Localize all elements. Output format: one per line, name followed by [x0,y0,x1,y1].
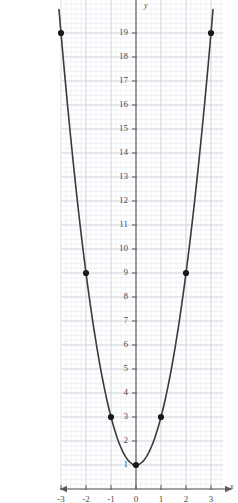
x-axis-label: x [230,482,234,491]
x-tick-label: -1 [101,494,121,503]
y-tick-label: 9 [104,267,128,277]
data-point [183,270,189,276]
y-tick-label: 6 [104,339,128,349]
graph-screenshot: 12345678910111213141516171819 -3-2-10123… [0,0,238,503]
y-tick-label: 18 [104,51,128,61]
y-tick-label: 15 [104,123,128,133]
x-tick-label: 1 [151,494,171,503]
x-tick-label: 3 [201,494,221,503]
y-tick-label: 19 [104,27,128,37]
data-point [83,270,89,276]
y-tick-label: 14 [104,147,128,157]
y-tick-label: 8 [104,291,128,301]
y-tick-label: 13 [104,171,128,181]
y-tick-label: 17 [104,75,128,85]
y-tick-label: 7 [104,315,128,325]
y-tick-label: 1 [104,459,128,469]
y-tick-label: 12 [104,195,128,205]
data-point [133,462,139,468]
data-point [158,414,164,420]
data-point [58,30,64,36]
y-tick-label: 2 [104,435,128,445]
y-axis-label: y [144,1,148,10]
x-tick-label: 0 [126,494,146,503]
y-tick-label: 3 [104,411,128,421]
y-tick-label: 10 [104,243,128,253]
x-tick-label: -2 [76,494,96,503]
y-tick-label: 11 [104,219,128,229]
data-point [208,30,214,36]
y-tick-label: 16 [104,99,128,109]
y-tick-label: 4 [104,387,128,397]
y-tick-label: 5 [104,363,128,373]
x-tick-label: 2 [176,494,196,503]
x-tick-label: -3 [51,494,71,503]
